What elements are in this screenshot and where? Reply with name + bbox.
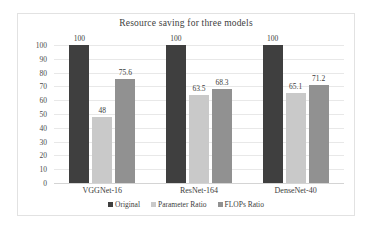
y-axis: 1009080706050403020100 xyxy=(18,45,50,183)
legend-swatch-icon xyxy=(218,202,223,207)
bar-value-label: 100 xyxy=(267,34,278,43)
legend-swatch-icon xyxy=(151,202,156,207)
bar[interactable]: 100 xyxy=(166,45,186,183)
chart-container: Resource saving for three models 1009080… xyxy=(17,13,355,216)
legend-item[interactable]: Parameter Ratio xyxy=(151,200,207,209)
y-axis-tick-label: 30 xyxy=(40,137,48,146)
bar-group: 1004875.6 xyxy=(54,45,151,183)
legend-label: Original xyxy=(115,200,140,209)
x-axis-tick-label: DenseNet-40 xyxy=(275,186,317,195)
bar-value-label: 75.6 xyxy=(119,68,132,77)
bar[interactable]: 71.2 xyxy=(309,85,329,183)
y-axis-tick-label: 80 xyxy=(40,68,48,77)
bar-value-label: 71.2 xyxy=(312,74,325,83)
bar[interactable]: 68.3 xyxy=(212,89,232,183)
bar-group: 10063.568.3 xyxy=(151,45,248,183)
bar-value-label: 63.5 xyxy=(192,84,205,93)
legend-item[interactable]: FLOPs Ratio xyxy=(218,200,264,209)
bar-value-label: 68.3 xyxy=(215,78,228,87)
x-axis: VGGNet-16ResNet-164DenseNet-40 xyxy=(54,186,344,198)
y-axis-tick-label: 40 xyxy=(40,123,48,132)
y-axis-tick-label: 10 xyxy=(40,165,48,174)
y-axis-tick-label: 0 xyxy=(43,179,47,188)
plot-area: 1004875.610063.568.310065.171.2 xyxy=(54,45,344,183)
legend-label: FLOPs Ratio xyxy=(225,200,264,209)
y-axis-tick-label: 100 xyxy=(36,41,47,50)
legend-swatch-icon xyxy=(108,202,113,207)
bar-group: 10065.171.2 xyxy=(247,45,344,183)
y-axis-tick-label: 50 xyxy=(40,110,48,119)
bar-value-label: 48 xyxy=(99,106,107,115)
bar-value-label: 65.1 xyxy=(289,82,302,91)
y-axis-tick-label: 90 xyxy=(40,54,48,63)
legend-item[interactable]: Original xyxy=(108,200,140,209)
bar[interactable]: 100 xyxy=(69,45,89,183)
chart-title: Resource saving for three models xyxy=(18,18,354,28)
x-axis-tick-label: VGGNet-16 xyxy=(83,186,123,195)
y-axis-tick-label: 70 xyxy=(40,82,48,91)
gridline xyxy=(54,183,344,184)
bar[interactable]: 63.5 xyxy=(189,95,209,183)
chart-legend: OriginalParameter RatioFLOPs Ratio xyxy=(18,200,354,209)
legend-label: Parameter Ratio xyxy=(158,200,207,209)
bar-value-label: 100 xyxy=(74,34,85,43)
bar[interactable]: 48 xyxy=(92,117,112,183)
bar-value-label: 100 xyxy=(170,34,181,43)
bar[interactable]: 75.6 xyxy=(115,79,135,183)
bar[interactable]: 100 xyxy=(263,45,283,183)
y-axis-tick-label: 20 xyxy=(40,151,48,160)
y-axis-tick-label: 60 xyxy=(40,96,48,105)
bar[interactable]: 65.1 xyxy=(286,93,306,183)
x-axis-tick-label: ResNet-164 xyxy=(180,186,218,195)
